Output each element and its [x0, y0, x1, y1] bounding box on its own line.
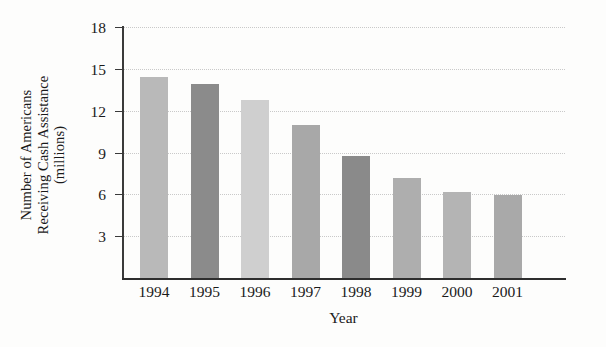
- x-tick-label-1996: 1996: [229, 283, 281, 301]
- y-axis-title-line-2: Receiving Cash Assistance: [35, 76, 52, 235]
- y-tick-label-15: 15: [91, 61, 107, 79]
- bar-1994: [140, 77, 168, 278]
- gridline-15: [124, 69, 565, 70]
- y-axis-title-line-3: (millions): [51, 126, 68, 184]
- bar-1997: [292, 125, 320, 278]
- plot-area: 369121518: [122, 27, 565, 278]
- x-axis-title: Year: [122, 309, 565, 327]
- y-axis-title: Number of Americans Receiving Cash Assis…: [15, 26, 71, 284]
- x-axis-line: [122, 278, 566, 280]
- bar-chart: Number of Americans Receiving Cash Assis…: [0, 0, 606, 347]
- y-tick-15: 15: [115, 69, 124, 70]
- y-tick-label-12: 12: [91, 103, 107, 121]
- bar-1996: [241, 100, 269, 278]
- x-tick-label-1997: 1997: [280, 283, 332, 301]
- bar-1995: [191, 84, 219, 278]
- y-tick-6: 6: [115, 194, 124, 195]
- y-tick-18: 18: [115, 27, 124, 28]
- y-tick-3: 3: [115, 236, 124, 237]
- bar-2000: [443, 192, 471, 278]
- y-tick-label-18: 18: [91, 19, 107, 37]
- y-tick-label-6: 6: [98, 186, 106, 204]
- bar-2001: [494, 195, 522, 278]
- bar-1998: [342, 156, 370, 278]
- y-axis-title-line-1: Number of Americans: [18, 90, 35, 221]
- x-tick-label-1998: 1998: [330, 283, 382, 301]
- y-tick-label-9: 9: [98, 145, 106, 163]
- x-tick-label-2000: 2000: [431, 283, 483, 301]
- y-tick-9: 9: [115, 153, 124, 154]
- bar-1999: [393, 178, 421, 278]
- x-tick-label-2001: 2001: [482, 283, 534, 301]
- x-tick-label-1999: 1999: [381, 283, 433, 301]
- y-tick-12: 12: [115, 111, 124, 112]
- gridline-18: [124, 27, 565, 28]
- x-tick-label-1994: 1994: [128, 283, 180, 301]
- x-tick-label-1995: 1995: [179, 283, 231, 301]
- y-tick-label-3: 3: [98, 228, 106, 246]
